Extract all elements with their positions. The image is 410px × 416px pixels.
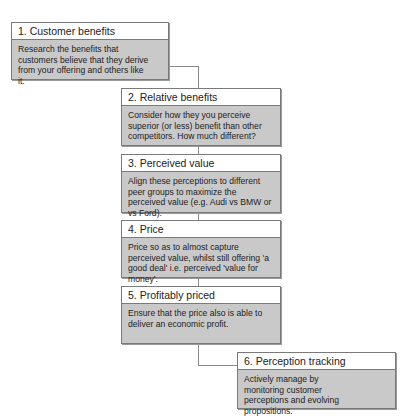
step-title: 5. Profitably priced	[122, 287, 280, 304]
step-box-profitably-priced: 5. Profitably priced Ensure that the pri…	[121, 286, 281, 344]
step-description: Actively manage by monitoring customer p…	[238, 370, 395, 416]
step-title: 1. Customer benefits	[12, 23, 168, 40]
connector-2-3	[198, 145, 199, 154]
step-box-price: 4. Price Price so as to almost capture p…	[121, 220, 281, 278]
step-description: Research the benefits that customers bel…	[12, 40, 168, 86]
step-title: 4. Price	[122, 221, 280, 238]
step-title: 6. Perception tracking	[238, 353, 395, 370]
step-description: Price so as to almost capture perceived …	[122, 238, 280, 284]
step-box-relative-benefits: 2. Relative benefits Consider how they y…	[121, 88, 281, 146]
step-description: Consider how they you perceive superior …	[122, 106, 280, 142]
connector-5-6-horizontal	[198, 365, 237, 366]
connector-1-2-vertical	[198, 66, 199, 88]
step-description: Align these perceptions to different pee…	[122, 172, 280, 218]
step-box-customer-benefits: 1. Customer benefits Research the benefi…	[11, 22, 169, 80]
step-box-perceived-value: 3. Perceived value Align these perceptio…	[121, 154, 281, 213]
step-title: 3. Perceived value	[122, 155, 280, 172]
connector-1-2-horizontal	[168, 66, 199, 67]
step-box-perception-tracking: 6. Perception tracking Actively manage b…	[237, 352, 396, 409]
step-title: 2. Relative benefits	[122, 89, 280, 106]
connector-5-6-vertical	[198, 343, 199, 366]
step-description: Ensure that the price also is able to de…	[122, 304, 280, 329]
